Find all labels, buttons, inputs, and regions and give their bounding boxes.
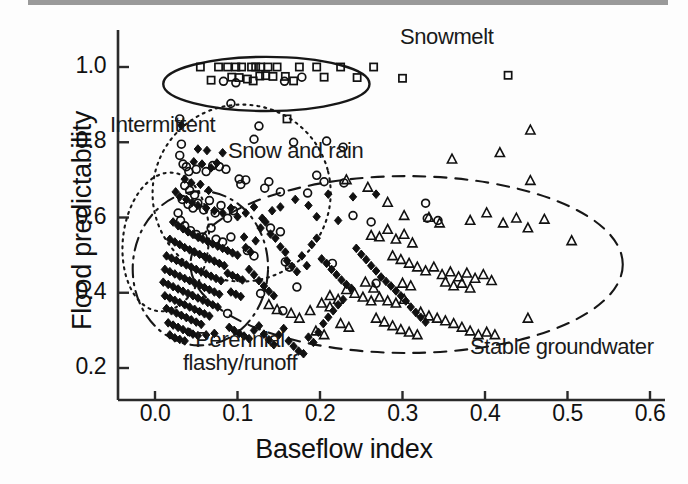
x-tick-label: 0.4 (457, 400, 513, 427)
x-tick-label: 0.3 (375, 400, 431, 427)
x-tick-label: 0.6 (622, 400, 678, 427)
x-tick-label: 0.1 (210, 400, 266, 427)
series-snowmelt (197, 63, 512, 122)
annotation-perennial-line1: Perennial (195, 327, 284, 352)
annotation-snowmelt: Snowmelt (400, 24, 493, 50)
annotation-stable-groundwater: Stable groundwater (470, 334, 654, 360)
x-axis-title: Baseflow index (0, 434, 688, 465)
annotation-intermittent: Intermittent (110, 112, 215, 138)
annotation-snow-and-rain: Snow and rain (228, 138, 363, 164)
x-tick-label: 0.0 (127, 400, 183, 427)
x-tick-label: 0.2 (292, 400, 348, 427)
annotation-perennial: Perennial flashy/runoff (160, 328, 320, 374)
x-tick-label: 0.5 (540, 400, 596, 427)
y-axis-title: Flood predictability (67, 21, 98, 421)
figure-page: 0.00.10.20.30.40.50.6 1.00.80.60.40.2 Ba… (0, 0, 688, 484)
annotation-perennial-line2: flashy/runoff (183, 350, 297, 375)
x-axis-ticks (155, 391, 650, 400)
